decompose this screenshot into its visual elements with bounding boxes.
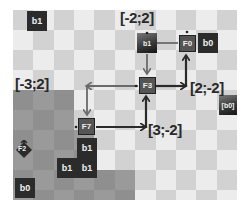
- grid-cell: [156, 90, 177, 110]
- grid-cell: [156, 30, 177, 50]
- grid-cell: [94, 130, 115, 150]
- grid-cell: [94, 150, 115, 170]
- grid-cell: [115, 90, 136, 110]
- node-f7: F7: [78, 118, 95, 135]
- tile-b0-bottom: b0: [15, 178, 35, 198]
- grid-cell: [115, 30, 136, 50]
- tile-b1-source: b1: [137, 33, 157, 53]
- grid-cell: [196, 10, 217, 30]
- label-right-coordinate: [2;-2]: [190, 79, 224, 96]
- grid-cell: [196, 170, 217, 190]
- grid-cell: [94, 110, 115, 130]
- grid-cell: [54, 110, 75, 130]
- grid-cell: [94, 10, 115, 30]
- grid-cell: [13, 30, 34, 50]
- grid-cell: [156, 170, 177, 190]
- grid-cell: [196, 110, 217, 130]
- grid-cell: [176, 170, 197, 190]
- grid-cell: [115, 70, 136, 90]
- grid-cell: [196, 150, 217, 170]
- grid-cell: [54, 130, 75, 150]
- grid-cell: [33, 150, 54, 170]
- grid-cell: [74, 30, 95, 50]
- grid-cell: [33, 90, 54, 110]
- grid-cell: [156, 10, 177, 30]
- grid-cell: [74, 70, 95, 90]
- grid-cell: [176, 150, 197, 170]
- grid-cell: [196, 50, 217, 70]
- grid-cell: [54, 30, 75, 50]
- grid-cell: [135, 150, 156, 170]
- grid-cell: [94, 30, 115, 50]
- tile-b0-edge: [b0]: [219, 95, 237, 115]
- grid-cell: [33, 110, 54, 130]
- grid-cell: [115, 190, 136, 200]
- grid-cell: [217, 50, 237, 70]
- grid-cell: [176, 10, 197, 30]
- grid-cell: [217, 30, 237, 50]
- grid-cell: [176, 50, 197, 70]
- grid-cell: [94, 70, 115, 90]
- grid-cell: [217, 150, 237, 170]
- grid-cell: [33, 190, 54, 200]
- node-f2: F2: [14, 140, 34, 160]
- grid-cell: [94, 170, 115, 190]
- grid-cell: [115, 170, 136, 190]
- grid-cell: [156, 70, 177, 90]
- grid-cell: [115, 50, 136, 70]
- grid-cell: [54, 50, 75, 70]
- grid-cell: [217, 10, 237, 30]
- grid-cell: [54, 90, 75, 110]
- grid-cell: [33, 130, 54, 150]
- grid-cell: [115, 150, 136, 170]
- node-f0: F0: [179, 35, 196, 52]
- grid-cell: [74, 10, 95, 30]
- grid-cell: [33, 170, 54, 190]
- grid-cell: [156, 50, 177, 70]
- grid-cell: [217, 190, 237, 200]
- grid-cell: [156, 190, 177, 200]
- grid-cell: [54, 10, 75, 30]
- grid-cell: [176, 190, 197, 200]
- label-bottom-coordinate: [3;-2]: [148, 121, 182, 138]
- grid-cell: [135, 50, 156, 70]
- grid-cell: [115, 130, 136, 150]
- node-f3: F3: [139, 77, 156, 94]
- grid-cell: [115, 110, 136, 130]
- grid-cell: [196, 130, 217, 150]
- label-left-coordinate: [-3;2]: [15, 75, 49, 92]
- grid-cell: [94, 190, 115, 200]
- tile-b1-stack: b1: [77, 158, 97, 178]
- grid-cell: [94, 50, 115, 70]
- grid-cell: [33, 30, 54, 50]
- grid-cell: [13, 90, 34, 110]
- tile-b1-top: b1: [27, 11, 47, 31]
- grid-cell: [54, 190, 75, 200]
- grid-cell: [74, 90, 95, 110]
- grid-cell: [54, 70, 75, 90]
- grid-cell: [13, 50, 34, 70]
- grid-cell: [33, 50, 54, 70]
- grid-cell: [74, 190, 95, 200]
- grid-cell: [135, 190, 156, 200]
- tile-b1-stack: b1: [57, 158, 77, 178]
- grid-cell: [156, 150, 177, 170]
- label-top-coordinate: [-2;2]: [120, 9, 154, 26]
- grid-cell: [217, 130, 237, 150]
- grid-cell: [135, 170, 156, 190]
- tile-b0-right: b0: [198, 33, 218, 53]
- tile-b1-stack: b1: [77, 138, 97, 158]
- grid-cell: [94, 90, 115, 110]
- grid-cell: [217, 170, 237, 190]
- grid-cell: [74, 50, 95, 70]
- grid-cell: [196, 190, 217, 200]
- grid-cell: [13, 110, 34, 130]
